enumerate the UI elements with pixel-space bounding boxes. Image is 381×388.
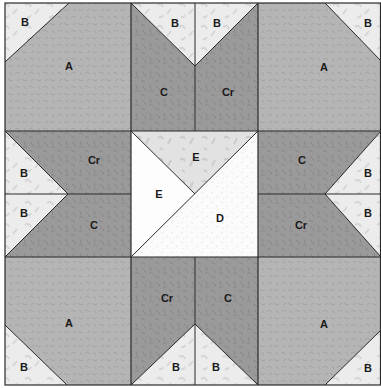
- label-Cr: Cr: [222, 86, 235, 98]
- block-middle-right: C Cr B B: [258, 131, 381, 257]
- label-A: A: [320, 61, 328, 73]
- label-B: B: [21, 16, 29, 28]
- label-B: B: [364, 362, 372, 374]
- block-top-left: A B: [5, 3, 131, 131]
- block-middle-left: Cr C B B: [5, 131, 131, 257]
- label-C: C: [90, 219, 98, 231]
- label-B: B: [171, 17, 179, 29]
- label-C: C: [224, 292, 232, 304]
- label-C: C: [160, 86, 168, 98]
- label-A: A: [65, 60, 73, 72]
- label-Cr: Cr: [295, 219, 308, 231]
- label-D: D: [216, 212, 224, 224]
- block-bottom-right: A B: [258, 257, 381, 385]
- label-B: B: [20, 167, 28, 179]
- label-B: B: [364, 167, 372, 179]
- label-B: B: [212, 361, 220, 373]
- label-E: E: [155, 188, 162, 200]
- label-B: B: [213, 17, 221, 29]
- label-B: B: [364, 17, 372, 29]
- label-Cr: Cr: [88, 154, 101, 166]
- quilt-block-diagram: A B B B C Cr A B Cr C B B: [0, 0, 381, 388]
- label-B: B: [20, 361, 28, 373]
- label-C: C: [298, 154, 306, 166]
- label-E: E: [192, 151, 199, 163]
- label-B: B: [20, 207, 28, 219]
- block-bottom-left: A B: [5, 257, 131, 385]
- block-center: E E D: [131, 131, 258, 257]
- label-B: B: [364, 207, 372, 219]
- block-top-right: A B: [258, 3, 381, 131]
- block-bottom-center: Cr C B B: [131, 257, 258, 385]
- block-top-center: B B C Cr: [131, 3, 258, 131]
- label-Cr: Cr: [161, 292, 174, 304]
- label-B: B: [172, 361, 180, 373]
- label-A: A: [65, 317, 73, 329]
- label-A: A: [320, 318, 328, 330]
